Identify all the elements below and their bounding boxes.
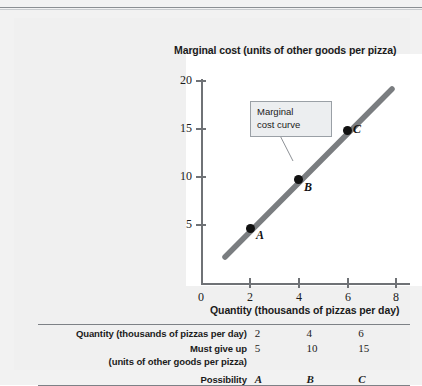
table-cell-give-up-a: 5 [255,342,307,355]
x-axis-title: Quantity (thousands of pizzas per day) [210,304,399,316]
table-rule-top [38,324,410,325]
data-point-a [246,224,255,233]
table-row: Must give up (units of other goods per p… [38,342,410,368]
table-row-label-must-give-up: Must give up (units of other goods per p… [38,342,255,368]
y-tick-label-5: 5 [166,217,192,232]
table-cell-give-up-c: 15 [358,342,410,355]
data-point-b [294,175,303,184]
plot-area [186,54,422,286]
callout-line-2: cost curve [257,119,325,132]
table-row-label-line-1: Must give up [38,342,247,355]
x-tick-label-8: 8 [383,290,409,305]
y-tick-20 [196,80,206,82]
figure-top-rule-secondary [0,9,422,10]
x-tick-label-6: 6 [335,290,361,305]
data-point-b-label: B [304,180,312,195]
data-table: Quantity (thousands of pizzas per day) 2… [38,327,410,386]
table-cell-quantity-a: 2 [255,327,307,340]
x-tick-6 [347,278,349,288]
callout-line-1: Marginal [257,106,325,119]
x-tick-label-4: 4 [286,290,312,305]
x-tick-label-0: 0 [188,290,214,305]
x-tick-label-2: 2 [237,290,263,305]
table-cell-give-up-b: 10 [307,342,359,355]
marginal-cost-curve-callout: Marginal cost curve [250,101,332,137]
table-row-label-line-2: (units of other goods per pizza) [38,355,247,368]
y-tick-label-10: 10 [166,169,192,184]
data-point-a-label: A [256,228,264,243]
table-cell-quantity-b: 4 [307,327,359,340]
x-tick-2 [249,278,251,288]
y-tick-label-20: 20 [166,73,192,88]
x-tick-8 [395,278,397,288]
data-point-c-label: C [353,122,361,137]
figure-panel: Marginal cost (units of other goods per … [14,18,410,370]
table-row-label-quantity: Quantity (thousands of pizzas per day) [38,327,255,340]
data-point-c [343,126,352,135]
x-axis-line [201,283,410,285]
table-cell-quantity-c: 6 [358,327,410,340]
y-axis-line [201,79,203,285]
x-tick-4 [298,278,300,288]
figure-top-rule [0,7,422,8]
y-tick-label-15: 15 [166,121,192,136]
y-tick-15 [196,128,206,130]
table-row: Quantity (thousands of pizzas per day) 2… [38,327,410,340]
y-tick-10 [196,176,206,178]
y-tick-5 [196,224,206,226]
y-axis-title: Marginal cost (units of other goods per … [174,44,396,56]
